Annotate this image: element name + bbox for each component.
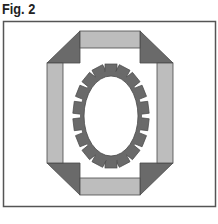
band-top: [80, 31, 140, 48]
band-bottom: [80, 178, 140, 195]
rosette-center: [84, 76, 138, 156]
rosette-ring: [73, 64, 149, 168]
band-right: [157, 63, 173, 163]
figure-diagram: [0, 0, 218, 224]
band-left: [47, 63, 63, 163]
